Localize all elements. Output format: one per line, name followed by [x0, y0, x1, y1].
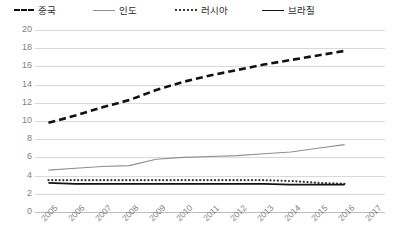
series-line-china [48, 51, 344, 123]
series-line-brazil [48, 183, 344, 185]
line-chart: 중국 인도 러시아 브라질 02468101214161820 20052006… [0, 0, 394, 251]
series-line-india [48, 145, 344, 170]
series-layer [0, 0, 394, 251]
